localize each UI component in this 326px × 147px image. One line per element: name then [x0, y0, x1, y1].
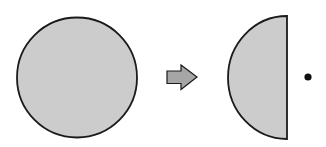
full-circle — [17, 18, 137, 138]
point-dot — [304, 73, 311, 80]
arrow-right-icon — [167, 65, 197, 90]
half-disc — [228, 16, 287, 139]
diagram-svg — [0, 0, 326, 147]
diagram-canvas — [0, 0, 326, 147]
